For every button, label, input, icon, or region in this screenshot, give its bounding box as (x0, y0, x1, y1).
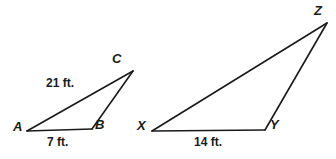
side-yz-line (265, 23, 327, 130)
vertex-label-x: X (137, 119, 146, 132)
vertex-label-a: A (13, 120, 22, 133)
vertex-label-z: Z (314, 4, 322, 17)
side-ac-line (27, 71, 133, 131)
vertex-label-b: B (95, 118, 104, 131)
vertex-label-c: C (112, 52, 121, 65)
triangle-xyz (152, 23, 327, 131)
side-measure-xy: 14 ft. (194, 136, 222, 148)
geometry-figure: A B C 21 ft. 7 ft. X Y Z 14 ft. (0, 0, 336, 159)
vertex-label-y: Y (270, 118, 279, 131)
side-xy-line (152, 130, 265, 131)
side-xz-line (152, 23, 327, 131)
side-measure-ab: 7 ft. (47, 136, 68, 148)
triangle-abc (27, 71, 133, 131)
side-measure-ac: 21 ft. (46, 77, 74, 89)
side-ab-line (27, 129, 92, 131)
